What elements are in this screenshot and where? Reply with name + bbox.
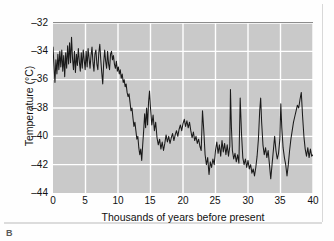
x-tick-label: 0 [41, 196, 65, 206]
y-axis-title: Temperature (°C) [23, 21, 35, 191]
figure-panel: –32 –34 –36 –38 –40 –42 –44 0 5 10 15 20… [0, 0, 334, 241]
x-tick-label: 35 [268, 196, 292, 206]
temperature-series-line [53, 23, 313, 193]
x-tick-label: 20 [171, 196, 195, 206]
page-edge-divider [322, 4, 323, 222]
x-tick-label: 25 [203, 196, 227, 206]
x-tick-label: 10 [106, 196, 130, 206]
x-tick-label: 30 [236, 196, 260, 206]
x-tick-label: 15 [138, 196, 162, 206]
plot-area [53, 22, 313, 193]
x-tick-label: 40 [301, 196, 325, 206]
x-axis-title: Thousands of years before present [53, 211, 313, 223]
panel-label: B [6, 228, 13, 238]
x-tick-label: 5 [73, 196, 97, 206]
